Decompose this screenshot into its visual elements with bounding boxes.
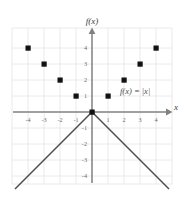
data-point bbox=[122, 78, 127, 83]
plot-canvas: -4 -3 -2 -1 1 2 3 4 4 3 2 1 -1 -2 -3 -4 … bbox=[0, 0, 184, 202]
x-axis-title: x bbox=[173, 102, 178, 112]
data-point bbox=[90, 110, 95, 115]
x-tick-label: 4 bbox=[154, 116, 157, 123]
y-tick-label: 1 bbox=[84, 92, 87, 99]
data-point bbox=[42, 62, 47, 67]
absolute-value-function-graph: -4 -3 -2 -1 1 2 3 4 4 3 2 1 -1 -2 -3 -4 … bbox=[0, 0, 184, 202]
x-axis-arrow-icon bbox=[166, 109, 173, 116]
y-axis-arrow-icon bbox=[89, 28, 96, 35]
x-tick-label: 2 bbox=[122, 116, 125, 123]
data-point bbox=[106, 94, 111, 99]
x-tick-label: -1 bbox=[73, 116, 78, 123]
x-tick-label: 3 bbox=[138, 116, 141, 123]
x-tick-label: 1 bbox=[106, 116, 109, 123]
x-tick-label: -3 bbox=[41, 116, 46, 123]
y-tick-label: -4 bbox=[82, 172, 87, 179]
y-tick-label: 4 bbox=[84, 44, 87, 51]
y-tick-label: -1 bbox=[82, 124, 87, 131]
data-point bbox=[138, 62, 143, 67]
y-tick-label: 2 bbox=[84, 76, 87, 83]
data-point bbox=[154, 46, 159, 51]
y-tick-label: -2 bbox=[82, 140, 87, 147]
y-axis-title: f(x) bbox=[86, 16, 99, 26]
data-point bbox=[26, 46, 31, 51]
data-point bbox=[74, 94, 79, 99]
y-tick-label: 3 bbox=[84, 60, 87, 67]
x-tick-label: -2 bbox=[57, 116, 62, 123]
y-tick-label: -3 bbox=[82, 156, 87, 163]
data-point bbox=[58, 78, 63, 83]
x-tick-label: -4 bbox=[25, 116, 30, 123]
function-equation-label: f(x) = |x| bbox=[120, 86, 150, 96]
